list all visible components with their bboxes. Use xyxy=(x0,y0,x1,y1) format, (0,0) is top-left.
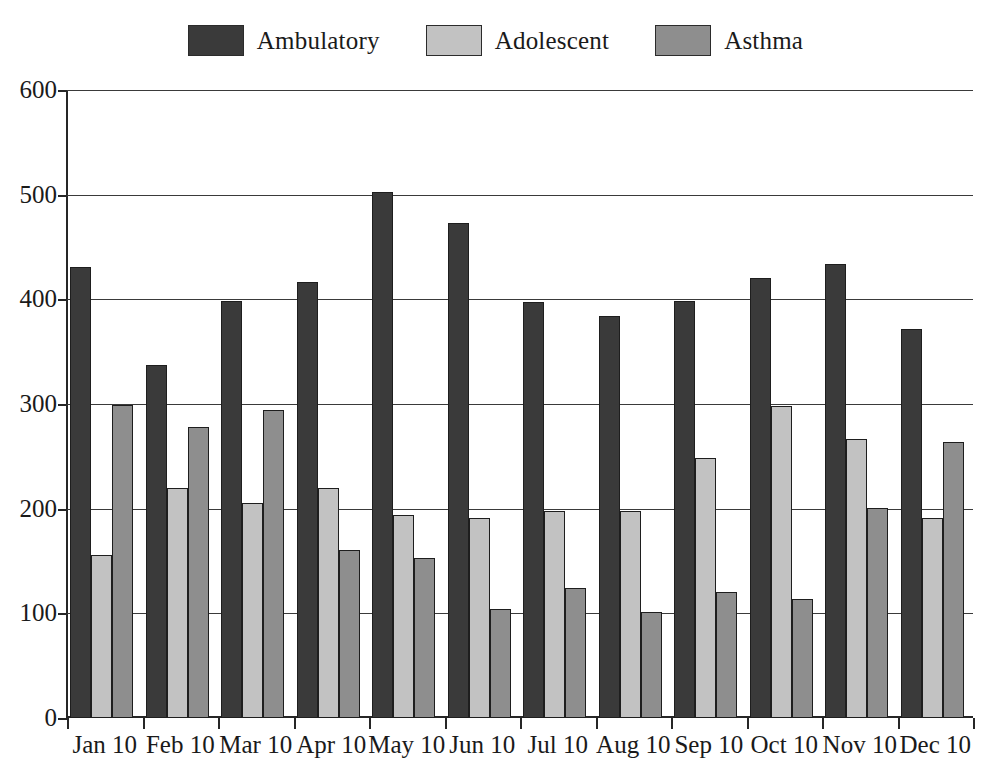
bar-asthma-oct-10 xyxy=(792,599,813,718)
y-axis-tick xyxy=(58,509,67,511)
legend-item-adolescent: Adolescent xyxy=(426,25,609,56)
bar-group xyxy=(671,90,747,718)
y-axis-tick xyxy=(58,613,67,615)
bar-adolescent-jan-10 xyxy=(91,555,112,718)
bar-adolescent-apr-10 xyxy=(318,488,339,718)
x-axis-tick xyxy=(67,718,69,729)
x-axis-tick xyxy=(520,718,522,729)
x-axis-tick xyxy=(822,718,824,729)
y-axis-tick-label: 500 xyxy=(20,182,58,207)
legend-item-ambulatory: Ambulatory xyxy=(188,25,380,56)
legend-swatch-adolescent xyxy=(426,25,482,56)
bar-ambulatory-nov-10 xyxy=(825,264,846,718)
bar-asthma-feb-10 xyxy=(188,427,209,718)
x-axis-tick xyxy=(747,718,749,729)
bar-asthma-mar-10 xyxy=(263,410,284,718)
bar-asthma-sep-10 xyxy=(716,592,737,718)
bar-group xyxy=(898,90,974,718)
x-axis-tick-label: Aug 10 xyxy=(596,732,670,757)
bar-adolescent-dec-10 xyxy=(922,518,943,718)
bar-ambulatory-mar-10 xyxy=(221,301,242,718)
y-axis-tick xyxy=(58,718,67,720)
bar-adolescent-oct-10 xyxy=(771,406,792,718)
y-axis-tick xyxy=(58,195,67,197)
bar-group xyxy=(520,90,596,718)
x-axis-tick-label: Feb 10 xyxy=(146,732,215,757)
bar-asthma-jun-10 xyxy=(490,609,511,718)
bar-group xyxy=(67,90,143,718)
bar-group xyxy=(747,90,823,718)
legend-swatch-asthma xyxy=(655,25,711,56)
x-axis-tick xyxy=(671,718,673,729)
y-axis-tick xyxy=(58,404,67,406)
bar-adolescent-jun-10 xyxy=(469,518,490,718)
bar-ambulatory-feb-10 xyxy=(146,365,167,718)
bar-group xyxy=(294,90,370,718)
bar-ambulatory-apr-10 xyxy=(297,282,318,718)
x-axis-tick-label: Jun 10 xyxy=(449,732,515,757)
y-axis-tick xyxy=(58,299,67,301)
bar-group xyxy=(445,90,521,718)
y-axis-tick-label: 0 xyxy=(45,705,58,730)
bar-adolescent-aug-10 xyxy=(620,511,641,718)
y-axis-tick-label: 300 xyxy=(20,391,58,416)
bar-ambulatory-oct-10 xyxy=(750,278,771,718)
bar-asthma-may-10 xyxy=(414,558,435,718)
x-axis-tick xyxy=(445,718,447,729)
x-axis-tick xyxy=(973,718,975,729)
x-axis-tick-label: Mar 10 xyxy=(219,732,292,757)
x-axis-tick-label: Jan 10 xyxy=(72,732,137,757)
bar-ambulatory-jul-10 xyxy=(523,302,544,718)
bar-asthma-jan-10 xyxy=(112,405,133,718)
y-axis-tick xyxy=(58,90,67,92)
bar-ambulatory-aug-10 xyxy=(599,316,620,718)
bar-asthma-jul-10 xyxy=(565,588,586,718)
bars-layer xyxy=(67,90,973,718)
y-axis-tick-label: 600 xyxy=(20,77,58,102)
x-axis-tick xyxy=(596,718,598,729)
bar-adolescent-nov-10 xyxy=(846,439,867,718)
y-axis-labels: 0100200300400500600 xyxy=(0,90,57,718)
bar-adolescent-sep-10 xyxy=(695,458,716,718)
bar-chart: Ambulatory Adolescent Asthma 01002003004… xyxy=(0,0,991,767)
x-axis: Jan 10Feb 10Mar 10Apr 10May 10Jun 10Jul … xyxy=(67,718,973,767)
legend-label-ambulatory: Ambulatory xyxy=(257,28,380,53)
x-axis-tick-label: May 10 xyxy=(368,732,445,757)
bar-ambulatory-jan-10 xyxy=(70,267,91,718)
x-axis-tick-label: Apr 10 xyxy=(296,732,366,757)
x-axis-tick xyxy=(898,718,900,729)
bar-asthma-apr-10 xyxy=(339,550,360,719)
x-axis-tick xyxy=(369,718,371,729)
bar-adolescent-jul-10 xyxy=(544,511,565,718)
x-axis-tick-label: Dec 10 xyxy=(900,732,972,757)
x-axis-tick xyxy=(143,718,145,729)
bar-asthma-dec-10 xyxy=(943,442,964,718)
y-axis-tick-label: 400 xyxy=(20,286,58,311)
legend-label-asthma: Asthma xyxy=(724,28,803,53)
x-axis-tick-label: Oct 10 xyxy=(751,732,818,757)
x-axis-tick-label: Jul 10 xyxy=(528,732,588,757)
bar-group xyxy=(596,90,672,718)
x-axis-tick xyxy=(218,718,220,729)
bar-ambulatory-sep-10 xyxy=(674,301,695,718)
y-axis-tick-label: 200 xyxy=(20,496,58,521)
legend-item-asthma: Asthma xyxy=(655,25,803,56)
x-axis-tick-label: Sep 10 xyxy=(674,732,743,757)
bar-adolescent-mar-10 xyxy=(242,503,263,718)
bar-group xyxy=(218,90,294,718)
legend-label-adolescent: Adolescent xyxy=(495,28,609,53)
bar-ambulatory-may-10 xyxy=(372,192,393,718)
legend-swatch-ambulatory xyxy=(188,25,244,56)
bar-asthma-aug-10 xyxy=(641,612,662,718)
bar-group xyxy=(822,90,898,718)
bar-ambulatory-dec-10 xyxy=(901,329,922,718)
x-axis-tick-label: Nov 10 xyxy=(823,732,897,757)
plot-area xyxy=(67,90,973,718)
bar-adolescent-may-10 xyxy=(393,515,414,718)
chart-legend: Ambulatory Adolescent Asthma xyxy=(0,16,991,64)
y-axis-tick-label: 100 xyxy=(20,600,58,625)
bar-group xyxy=(369,90,445,718)
bar-ambulatory-jun-10 xyxy=(448,223,469,718)
bar-asthma-nov-10 xyxy=(867,508,888,718)
bar-adolescent-feb-10 xyxy=(167,488,188,718)
